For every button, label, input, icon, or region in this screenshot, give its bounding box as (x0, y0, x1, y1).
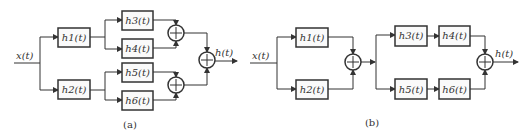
svg-text:h2(t): h2(t) (62, 84, 87, 95)
input-label-a: x(t) (16, 50, 34, 61)
svg-text:h5(t): h5(t) (399, 84, 424, 95)
block-h6-b: h6(t) (439, 79, 470, 99)
block-h2-a: h2(t) (58, 80, 90, 99)
summing-junction-2-a (168, 77, 184, 93)
svg-text:h1(t): h1(t) (62, 32, 87, 43)
summing-junction-1-a (168, 25, 184, 41)
summing-junction-3-a (199, 52, 215, 68)
block-h1-a: h1(t) (58, 28, 90, 47)
block-h1-b: h1(t) (296, 28, 328, 47)
block-h3-a: h3(t) (122, 11, 153, 30)
output-label-b: h(t) (495, 48, 513, 59)
summing-junction-1-b (345, 54, 361, 70)
summing-junction-2-b (477, 54, 493, 70)
diagram-a: x(t) h1(t) h2(t) h3(t) h4(t) (14, 11, 237, 130)
caption-b: (b) (365, 117, 379, 128)
block-h6-a: h6(t) (122, 91, 153, 110)
svg-text:h3(t): h3(t) (125, 15, 150, 26)
svg-text:h5(t): h5(t) (125, 67, 150, 78)
block-h4-b: h4(t) (439, 26, 470, 46)
block-h3-b: h3(t) (395, 26, 427, 46)
svg-text:h4(t): h4(t) (125, 43, 150, 54)
svg-text:h4(t): h4(t) (442, 30, 467, 41)
block-h4-a: h4(t) (122, 39, 153, 58)
svg-text:h1(t): h1(t) (300, 32, 325, 43)
block-h5-a: h5(t) (122, 63, 153, 82)
diagram-b: x(t) h1(t) h2(t) h3(t) h4(t) (250, 26, 518, 128)
output-label-a: h(t) (215, 47, 233, 58)
block-diagrams: x(t) h1(t) h2(t) h3(t) h4(t) (0, 0, 524, 138)
svg-text:h3(t): h3(t) (399, 30, 424, 41)
block-h2-b: h2(t) (296, 80, 328, 99)
input-label-b: x(t) (252, 50, 270, 61)
svg-text:h6(t): h6(t) (442, 84, 467, 95)
svg-text:h6(t): h6(t) (125, 95, 150, 106)
svg-text:h2(t): h2(t) (300, 84, 325, 95)
block-h5-b: h5(t) (395, 79, 427, 99)
caption-a: (a) (123, 119, 137, 130)
